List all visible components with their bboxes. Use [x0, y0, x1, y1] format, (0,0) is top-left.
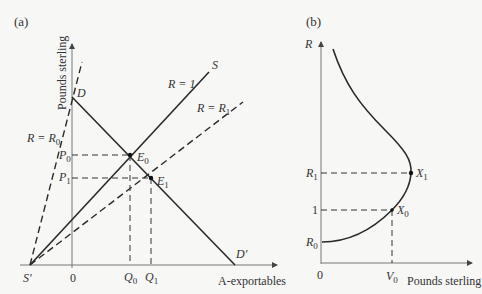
panel-a-y-axis-label: Pounds sterling [55, 36, 69, 110]
tick-r1: R1 [305, 166, 318, 182]
label-s: S [212, 58, 218, 72]
demand-line [72, 97, 235, 265]
label-x0: X0 [396, 203, 409, 219]
tick-p0: P0 [58, 148, 71, 164]
label-d-prime: D′ [235, 247, 248, 261]
tick-p1: P1 [58, 170, 71, 186]
tick-r0: R0 [305, 235, 318, 251]
label-r-equals-1: R = 1 [167, 77, 195, 91]
label-r-equals-r1: R = R1 [196, 101, 230, 117]
label-e1: E1 [156, 174, 169, 190]
label-e0: E0 [136, 150, 149, 166]
tick-q0: Q0 [124, 270, 138, 286]
label-r-equals-r0: R = R0 [26, 131, 61, 147]
panel-a-tag: (a) [14, 14, 28, 29]
panel-a-origin: 0 [70, 271, 76, 285]
panel-b-tag: (b) [306, 14, 321, 29]
panel-b-y-axis-label: R [304, 37, 313, 51]
panel-a-x-axis-label: A-exportables [218, 274, 286, 288]
panel-a: (a) Pounds sterling A-exportables 0 D D′… [14, 14, 286, 288]
label-d: D [76, 86, 86, 100]
tick-v0: V0 [386, 269, 398, 285]
label-x1: X1 [415, 166, 428, 182]
panel-b-origin: 0 [317, 268, 323, 282]
tick-q1: Q1 [145, 270, 158, 286]
panel-b-x-axis-label: Pounds sterling [407, 274, 481, 288]
equilibrium-e1-dot [149, 176, 153, 180]
diagram-canvas: (a) Pounds sterling A-exportables 0 D D′… [0, 0, 482, 294]
equilibrium-e0-dot [128, 153, 132, 157]
point-x0-dot [390, 208, 394, 212]
point-x1-dot [409, 171, 413, 175]
tick-one: 1 [312, 203, 318, 217]
panel-b: (b) R Pounds sterling 0 X1 X0 R1 1 R0 V0 [304, 14, 481, 288]
label-s-prime: S′ [23, 271, 32, 285]
